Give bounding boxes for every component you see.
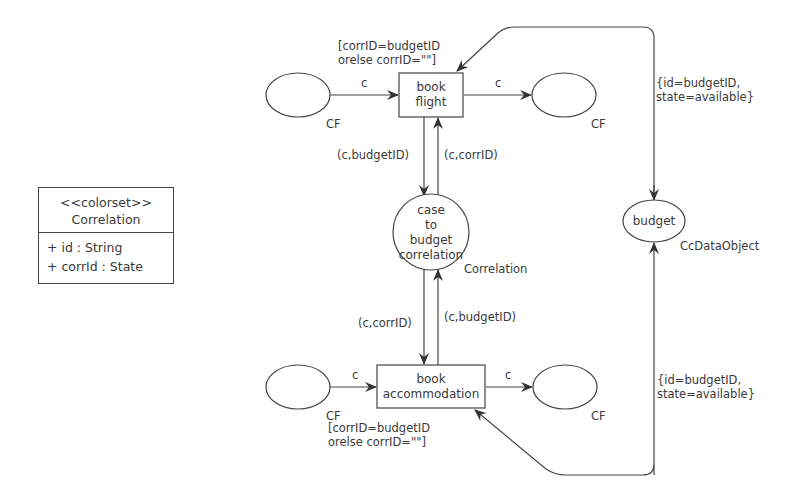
book-flight-guard-1: [corrID=budgetID — [338, 39, 440, 53]
arc-label-correlation-to-flight: (c,corrID) — [444, 148, 498, 162]
arc-label-budget-accommodation-2: state=available} — [657, 387, 755, 401]
arc-label-accommodation-to-cf: c — [505, 368, 511, 382]
cf-bottom-right-type: CF — [591, 409, 606, 423]
correlation-label-1: case — [417, 203, 445, 217]
cf-top-right-type: CF — [591, 117, 606, 131]
book-flight-guard-2: orelse corrID=""] — [338, 53, 436, 67]
arc-budget-accommodation — [475, 410, 654, 475]
arc-label-budget-flight-1: {id=budgetID, — [656, 76, 740, 90]
correlation-label-4: correlation — [399, 248, 463, 262]
budget-type-label: CcDataObject — [680, 239, 760, 253]
arc-label-accommodation-to-correlation: (c,budgetID) — [444, 310, 516, 324]
cf-bottom-left-type: CF — [326, 409, 341, 423]
place-cf-bottom-left[interactable] — [266, 365, 330, 409]
cf-top-left-type: CF — [326, 117, 341, 131]
arc-label-budget-accommodation-1: {id=budgetID, — [657, 373, 741, 387]
arc-label-cf-to-flight: c — [361, 76, 367, 90]
budget-label: budget — [633, 214, 676, 228]
arc-label-correlation-to-accommodation: (c,corrID) — [358, 316, 412, 330]
arc-label-flight-to-cf: c — [495, 76, 501, 90]
book-accommodation-label-2: accommodation — [383, 387, 480, 401]
correlation-label-2: to — [425, 218, 437, 232]
book-accommodation-label-1: book — [416, 372, 445, 386]
book-flight-label-2: flight — [416, 95, 447, 109]
correlation-type-label: Correlation — [464, 262, 527, 276]
petri-net-diagram: book flight book accommodation [corrID=b… — [0, 0, 802, 500]
place-cf-bottom-right[interactable] — [533, 365, 597, 409]
book-flight-label-1: book — [416, 80, 445, 94]
correlation-label-3: budget — [410, 233, 453, 247]
place-cf-top-right[interactable] — [532, 73, 596, 117]
arc-label-budget-flight-2: state=available} — [656, 90, 754, 104]
arc-label-flight-to-correlation: (c,budgetID) — [337, 148, 409, 162]
place-cf-top-left[interactable] — [266, 73, 330, 117]
book-accommodation-guard-1: [corrID=budgetID — [328, 421, 430, 435]
book-accommodation-guard-2: orelse corrID=""] — [328, 435, 426, 449]
arc-label-cf-to-accommodation: c — [352, 368, 358, 382]
